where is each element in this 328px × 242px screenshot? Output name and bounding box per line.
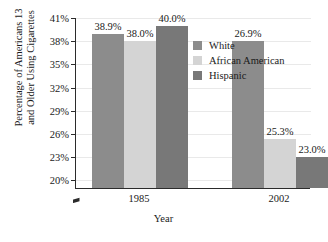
- x-axis-group-label: 2002: [269, 193, 290, 204]
- y-axis-title-line-1: Percentage of Americans 13: [13, 0, 25, 158]
- y-axis-title: Percentage of Americans 13 and Older Usi…: [13, 0, 36, 158]
- y-axis-tick: [71, 64, 76, 65]
- x-axis-line: [75, 188, 310, 189]
- legend: WhiteAfrican AmericanHispanic: [193, 38, 285, 83]
- bar: 40.0%: [156, 26, 188, 188]
- y-axis-tick-label: 29%: [50, 105, 69, 116]
- y-axis-tick: [71, 134, 76, 135]
- bar: 38.0%: [124, 41, 156, 188]
- gridline: [76, 18, 311, 19]
- y-axis-tick: [71, 180, 76, 181]
- cropped-title-remnant: [0, 0, 327, 4]
- bar-value-label: 38.9%: [94, 21, 121, 32]
- y-axis-tick: [71, 157, 76, 158]
- legend-swatch-white: [193, 41, 202, 50]
- bar-value-label: 25.3%: [266, 126, 293, 137]
- legend-swatch-african-american: [193, 56, 202, 65]
- y-axis-break-mark: [73, 197, 80, 204]
- legend-item-label: Hispanic: [209, 70, 246, 81]
- y-axis-tick-label: 23%: [50, 152, 69, 163]
- bar: 38.9%: [92, 34, 124, 188]
- y-axis-title-line-2: and Older Using Cigarettes: [24, 0, 36, 158]
- y-axis-tick-label: 20%: [50, 175, 69, 186]
- legend-item: Hispanic: [193, 68, 285, 83]
- bar-value-label: 38.0%: [126, 28, 153, 39]
- y-axis-tick-label: 41%: [50, 13, 69, 24]
- y-axis-tick-label: 32%: [50, 82, 69, 93]
- y-axis-tick: [71, 88, 76, 89]
- x-axis-title: Year: [0, 213, 327, 224]
- bar-value-label: 23.0%: [298, 144, 325, 155]
- bar: 25.3%: [264, 139, 296, 188]
- bar-value-label: 40.0%: [158, 13, 185, 24]
- legend-item: African American: [193, 53, 285, 68]
- legend-item: White: [193, 38, 285, 53]
- y-axis-tick-label: 35%: [50, 59, 69, 70]
- bar: 23.0%: [296, 157, 328, 188]
- y-axis-tick: [71, 111, 76, 112]
- y-axis-tick: [71, 18, 76, 19]
- y-axis-tick-label: 38%: [50, 36, 69, 47]
- y-axis-tick-label: 26%: [50, 128, 69, 139]
- legend-swatch-hispanic: [193, 71, 202, 80]
- y-axis-tick: [71, 41, 76, 42]
- legend-item-label: African American: [209, 55, 285, 66]
- x-axis-group-label: 1985: [129, 193, 150, 204]
- legend-item-label: White: [209, 40, 235, 51]
